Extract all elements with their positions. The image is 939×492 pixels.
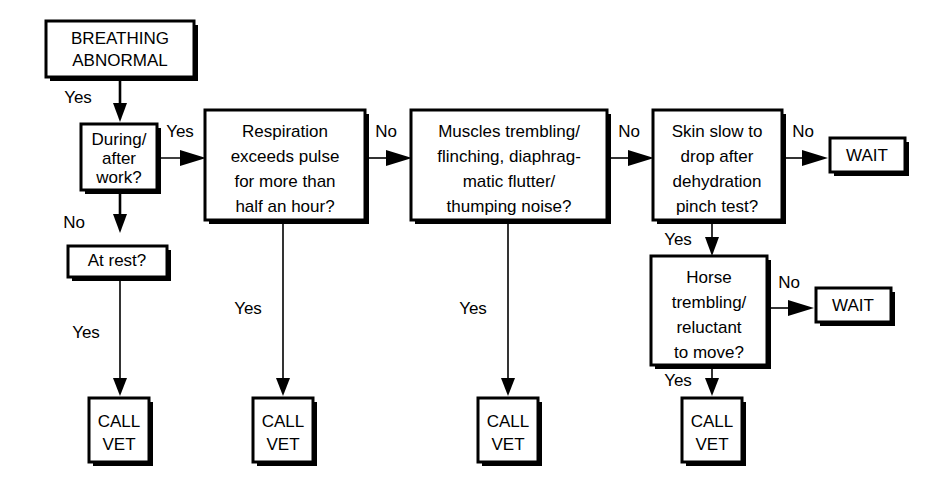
edge-label-work-to-respiration: Yes	[166, 122, 194, 141]
edge-label-start-to-work: Yes	[64, 88, 92, 107]
node-at-rest-line-0: At rest?	[88, 251, 147, 270]
edge-muscles-to-call-vet-3	[501, 222, 515, 396]
node-call-vet-2[interactable]: CALL VET	[253, 398, 317, 466]
edge-label-muscles-to-skin: No	[618, 122, 640, 141]
edge-label-respiration-to-muscles: No	[375, 122, 397, 141]
node-call-vet-1[interactable]: CALL VET	[89, 398, 153, 466]
node-respiration-line-1: exceeds pulse	[231, 147, 340, 166]
edge-label-muscles-to-call-vet-3: Yes	[459, 299, 487, 318]
node-call-vet-3-line-1: VET	[491, 435, 524, 454]
node-horse-line-3: to move?	[674, 343, 744, 362]
node-muscles-line-3: thumping noise?	[447, 197, 572, 216]
node-skin-line-0: Skin slow to	[672, 122, 763, 141]
edge-at-rest-to-call-vet-1	[113, 277, 127, 396]
edge-label-work-to-at-rest: No	[63, 213, 85, 232]
node-breathing-abnormal-line-0: BREATHING	[71, 29, 169, 48]
edge-label-horse-to-wait-bottom: No	[778, 273, 800, 292]
node-breathing-abnormal-line-1: ABNORMAL	[72, 51, 167, 70]
flowchart-diagram: BREATHING ABNORMAL During/ after work? A…	[0, 0, 939, 492]
edge-work-to-respiration	[159, 150, 206, 166]
edge-respiration-to-muscles	[365, 150, 412, 166]
edge-label-at-rest-to-call-vet-1: Yes	[72, 323, 100, 342]
node-call-vet-1-line-0: CALL	[98, 412, 141, 431]
node-at-rest[interactable]: At rest?	[68, 246, 171, 281]
node-call-vet-1-line-1: VET	[102, 435, 135, 454]
edge-skin-to-horse	[705, 222, 719, 256]
node-respiration[interactable]: Respiration exceeds pulse for more than …	[205, 110, 369, 224]
node-call-vet-3-line-0: CALL	[487, 412, 530, 431]
edge-start-to-work	[113, 78, 127, 122]
node-skin-line-1: drop after	[681, 147, 754, 166]
node-wait-bottom-label: WAIT	[832, 296, 874, 315]
edge-skin-to-wait-top	[782, 150, 828, 166]
edge-horse-to-wait-bottom	[767, 300, 814, 316]
edge-work-to-at-rest	[113, 191, 127, 233]
edge-label-respiration-to-call-vet-2: Yes	[234, 299, 262, 318]
node-skin-line-2: dehydration	[673, 172, 762, 191]
flowchart-canvas: BREATHING ABNORMAL During/ after work? A…	[0, 0, 939, 492]
node-wait-bottom[interactable]: WAIT	[816, 288, 895, 326]
node-breathing-abnormal[interactable]: BREATHING ABNORMAL	[46, 21, 198, 81]
node-call-vet-4-line-0: CALL	[691, 412, 734, 431]
node-respiration-line-0: Respiration	[242, 122, 328, 141]
edge-label-skin-to-wait-top: No	[792, 122, 814, 141]
node-call-vet-2-line-1: VET	[266, 435, 299, 454]
node-horse-line-1: trembling/	[672, 293, 747, 312]
node-during-after-work-line-2: work?	[95, 168, 141, 187]
node-muscles-line-0: Muscles trembling/	[438, 122, 580, 141]
node-call-vet-2-line-0: CALL	[262, 412, 305, 431]
node-call-vet-4-line-1: VET	[695, 435, 728, 454]
node-during-after-work-line-0: During/	[92, 130, 147, 149]
node-horse-trembling[interactable]: Horse trembling/ reluctant to move?	[651, 256, 771, 369]
node-skin-pinch-test[interactable]: Skin slow to drop after dehydration pinc…	[653, 110, 786, 224]
node-respiration-line-2: for more than	[234, 172, 335, 191]
node-call-vet-3[interactable]: CALL VET	[478, 398, 542, 466]
node-wait-top[interactable]: WAIT	[830, 138, 909, 176]
node-muscles-line-1: flinching, diaphrag-	[437, 147, 581, 166]
node-muscles[interactable]: Muscles trembling/ flinching, diaphrag- …	[411, 110, 611, 224]
edge-muscles-to-skin	[607, 150, 654, 166]
edge-respiration-to-call-vet-2	[276, 222, 290, 396]
edge-label-horse-to-call-vet-4: Yes	[664, 371, 692, 390]
node-during-after-work-line-1: after	[102, 149, 136, 168]
node-wait-top-label: WAIT	[846, 146, 888, 165]
node-horse-line-0: Horse	[686, 268, 731, 287]
node-muscles-line-2: matic flutter/	[463, 172, 556, 191]
node-horse-line-2: reluctant	[676, 318, 741, 337]
node-respiration-line-3: half an hour?	[235, 197, 334, 216]
edge-label-skin-to-horse: Yes	[664, 230, 692, 249]
node-call-vet-4[interactable]: CALL VET	[682, 398, 746, 466]
node-during-after-work[interactable]: During/ after work?	[81, 124, 161, 194]
node-skin-line-3: pinch test?	[676, 197, 758, 216]
